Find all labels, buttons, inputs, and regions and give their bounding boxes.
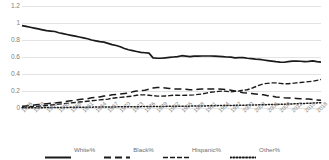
y-axis-tick-label: 0.8 <box>0 37 20 44</box>
series-line-white <box>22 26 321 63</box>
chart-legend: White%Black%Hispanic%Other% <box>0 143 325 157</box>
legend-item-black[interactable]: Black% <box>104 147 154 154</box>
plot-area <box>22 6 321 108</box>
legend-label: Other% <box>259 147 280 153</box>
legend-label: White% <box>74 147 95 153</box>
legend-item-other[interactable]: Other% <box>230 147 280 154</box>
y-axis-tick-label: 0.2 <box>0 88 20 95</box>
series-lines <box>22 6 321 108</box>
legend-key-icon <box>104 147 130 154</box>
x-axis: 1946194919521955195819611964196719701973… <box>22 108 321 142</box>
legend-item-hispanic[interactable]: Hispanic% <box>163 147 221 154</box>
legend-key-icon <box>230 147 256 154</box>
y-axis-tick-label: 1.2 <box>0 3 20 10</box>
y-axis-tick-label: 1 <box>0 20 20 27</box>
legend-key-icon <box>163 147 189 154</box>
y-axis-tick-label: 0.6 <box>0 54 20 61</box>
y-axis-tick-label: 0.4 <box>0 71 20 78</box>
legend-key-icon <box>45 147 71 154</box>
y-axis-tick-label: 0 <box>0 105 20 112</box>
legend-label: Hispanic% <box>192 147 221 153</box>
legend-label: Black% <box>133 147 154 153</box>
legend-item-white[interactable]: White% <box>45 147 95 154</box>
